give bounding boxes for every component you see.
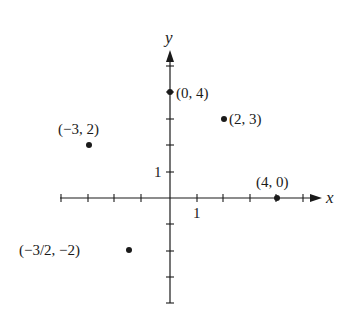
y-axis-arrow-icon (166, 50, 174, 62)
point-label: (−3/2, −2) (19, 242, 80, 259)
point-label: (−3, 2) (58, 121, 99, 138)
point-label: (0, 4) (176, 85, 209, 102)
coordinate-plane: x 1 y 1 (−3, 2) (0, 4) (2, 3) ( (0, 0, 352, 317)
point-label: (2, 3) (229, 111, 262, 128)
y-unit-label: 1 (154, 164, 162, 180)
point-neg3-2: (−3, 2) (58, 121, 99, 148)
point-2-3: (2, 3) (221, 111, 262, 128)
point-marker-icon (221, 116, 227, 122)
point-marker-icon (86, 142, 92, 148)
point-marker-icon (167, 89, 173, 95)
point-neg1.5-neg2: (−3/2, −2) (19, 242, 132, 259)
point-label: (4, 0) (256, 174, 289, 191)
point-0-4: (0, 4) (167, 85, 209, 102)
point-marker-icon (126, 247, 132, 253)
x-axis-label: x (325, 188, 334, 207)
x-unit-label: 1 (193, 205, 201, 221)
x-axis-arrow-icon (310, 194, 322, 202)
y-axis-label: y (163, 28, 173, 47)
x-axis: x 1 (60, 188, 334, 221)
point-marker-icon (274, 195, 280, 201)
point-4-0: (4, 0) (256, 174, 289, 201)
y-axis: y 1 (154, 28, 174, 303)
